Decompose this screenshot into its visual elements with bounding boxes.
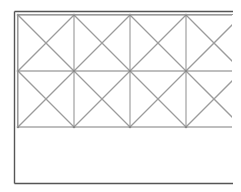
grid-node bbox=[185, 70, 188, 73]
grid-lines bbox=[18, 15, 232, 127]
grid-node bbox=[73, 70, 76, 73]
grid-node bbox=[73, 126, 76, 129]
lattice-diagram bbox=[0, 0, 241, 192]
grid-node bbox=[129, 70, 132, 73]
grid-node bbox=[185, 126, 188, 129]
grid-node bbox=[129, 126, 132, 129]
